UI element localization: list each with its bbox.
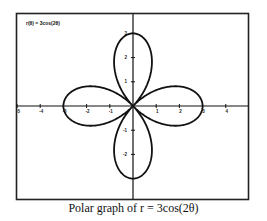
curve-legend: r(θ) = 3cos(2θ) — [26, 20, 60, 26]
y-tick-label: -2 — [123, 152, 127, 157]
figure-caption: Polar graph of r = 3cos(2θ) — [0, 201, 267, 216]
x-tick-label: -5 — [16, 109, 20, 114]
polar-plot: -5-4-3-2-11234 321-1-2 r(θ) = 3cos(2θ) — [0, 0, 267, 221]
x-tick-label: -2 — [86, 109, 90, 114]
x-tick-label: -4 — [39, 109, 43, 114]
x-tick-label: -1 — [109, 109, 113, 114]
y-tick-label: -1 — [123, 128, 127, 133]
